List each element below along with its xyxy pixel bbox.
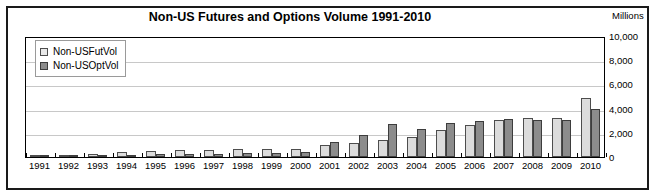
x-axis-tick (577, 153, 578, 157)
x-axis-tick (374, 153, 375, 157)
x-axis-tick-label: 2010 (576, 160, 605, 171)
x-axis-tick (287, 153, 288, 157)
x-axis-tick-label: 2008 (518, 160, 547, 171)
y-axis-tick-label: 6,000 (609, 79, 633, 90)
x-axis-tick-label: 1998 (228, 160, 257, 171)
x-axis-tick-label: 2007 (489, 160, 518, 171)
legend-label-fut: Non-USFutVol (53, 46, 117, 57)
legend-item-opt: Non-USOptVol (40, 59, 119, 72)
x-axis-tick-label: 2003 (373, 160, 402, 171)
x-axis-tick-label: 2002 (344, 160, 373, 171)
x-axis-tick (142, 153, 143, 157)
x-axis-tick-label: 1993 (83, 160, 112, 171)
x-axis-tick-label: 1995 (141, 160, 170, 171)
x-axis-tick (432, 153, 433, 157)
y-axis-tick-label: 2,000 (609, 128, 633, 139)
x-axis-tick (519, 153, 520, 157)
x-axis-tick (258, 153, 259, 157)
x-axis-tick-label: 1996 (170, 160, 199, 171)
x-axis-tick (113, 153, 114, 157)
x-axis-tick (490, 153, 491, 157)
x-axis-tick-label: 2004 (402, 160, 431, 171)
x-axis-tick (403, 153, 404, 157)
x-axis-tick-label: 1994 (112, 160, 141, 171)
x-axis-tick (26, 153, 27, 157)
x-axis-tick-label: 2009 (547, 160, 576, 171)
x-axis-tick-label: 2005 (431, 160, 460, 171)
y-axis-units-label: Millions (612, 10, 644, 21)
legend-swatch-icon-fut (40, 48, 48, 56)
x-axis-tick-label: 2000 (286, 160, 315, 171)
x-axis-tick (461, 153, 462, 157)
y-axis-tick-label: 8,000 (609, 55, 633, 66)
x-axis-tick-label: 1999 (257, 160, 286, 171)
x-axis-tick (229, 153, 230, 157)
chart-title: Non-US Futures and Options Volume 1991-2… (30, 10, 550, 24)
chart-legend: Non-USFutVol Non-USOptVol (35, 40, 126, 77)
x-axis-tick-label: 1997 (199, 160, 228, 171)
x-axis-tick (55, 153, 56, 157)
x-axis-tick (316, 153, 317, 157)
x-axis-tick (171, 153, 172, 157)
legend-label-opt: Non-USOptVol (53, 60, 119, 71)
legend-swatch-icon-opt (40, 62, 48, 70)
y-axis-tick-label: 0 (609, 152, 614, 163)
x-axis-tick (84, 153, 85, 157)
x-axis-tick-label: 2006 (460, 160, 489, 171)
chart-screenshot: Non-US Futures and Options Volume 1991-2… (0, 0, 656, 196)
x-axis-tick (200, 153, 201, 157)
x-axis-tick (606, 153, 607, 157)
x-axis-tick-label: 1992 (54, 160, 83, 171)
legend-item-fut: Non-USFutVol (40, 45, 119, 58)
x-axis-tick (345, 153, 346, 157)
x-axis-tick-label: 2001 (315, 160, 344, 171)
x-axis-tick-label: 1991 (25, 160, 54, 171)
y-axis-tick-label: 10,000 (609, 31, 638, 42)
x-axis-tick (548, 153, 549, 157)
y-axis-tick-label: 4,000 (609, 104, 633, 115)
